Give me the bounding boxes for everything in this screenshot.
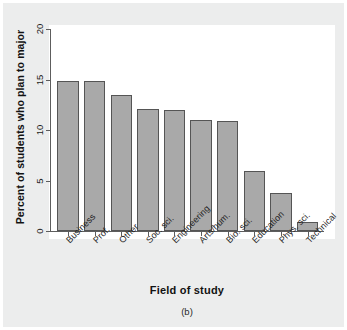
bar — [111, 95, 132, 231]
y-tick-label: 10 — [31, 122, 47, 138]
bar — [137, 109, 158, 231]
bar — [84, 81, 105, 231]
y-tick-label: 5 — [31, 173, 47, 189]
y-tick-label: 20 — [31, 21, 47, 37]
figure-container: 05101520 BusinessProf.OtherSoc. sci.Engi… — [0, 0, 347, 330]
figure-caption: (b) — [50, 306, 324, 317]
bar — [57, 81, 78, 231]
y-axis-line — [50, 29, 51, 232]
y-tick-label: 0 — [31, 223, 47, 239]
y-axis-title: Percent of students who plan to major — [14, 22, 26, 232]
x-axis-title: Field of study — [50, 284, 324, 296]
bar — [164, 110, 185, 231]
y-tick-label: 15 — [31, 72, 47, 88]
